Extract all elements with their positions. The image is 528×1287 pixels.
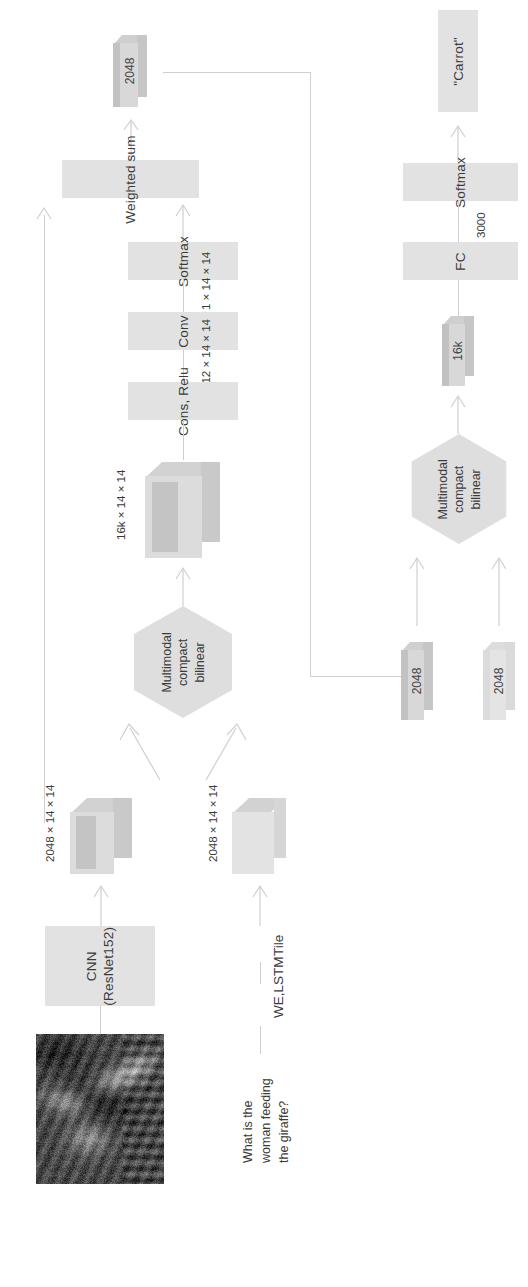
imgfeat-inner-face xyxy=(76,816,96,869)
hidden-16k-slab: 16k xyxy=(442,316,474,386)
line-16k-to-fc xyxy=(458,280,459,316)
line-photo-to-cnn xyxy=(100,1006,101,1034)
line-softmax-to-conv xyxy=(183,280,184,312)
cnn-label: CNN (ResNet152) xyxy=(83,927,118,1006)
photo-canvas xyxy=(36,1034,164,1184)
arrow-imgvec-to-mcb-answer xyxy=(408,556,426,626)
line-fc-to-softmax xyxy=(458,201,459,243)
cnn-node[interactable]: CNN (ResNet152) xyxy=(45,926,155,1006)
edge-label-1x14x14: 1 × 14 × 14 xyxy=(200,252,212,310)
mcb-attention-label: Multimodal compact bilinear xyxy=(159,632,208,692)
volume-inner-face xyxy=(152,482,178,552)
edge-label-3000: 3000 xyxy=(475,212,487,238)
line-volume-to-relu xyxy=(183,420,184,460)
volume-16k-block xyxy=(145,462,220,558)
answer-label: "Carrot" xyxy=(451,37,466,86)
edge-label-16k: 16k × 14 × 14 xyxy=(115,470,127,540)
conv-label: Conv xyxy=(175,315,190,347)
hidden-16k-label: 16k xyxy=(451,341,465,360)
mcb-answer-label: Multimodal compact bilinear xyxy=(435,459,484,519)
txtfeat-front-face xyxy=(232,812,274,874)
skip-connection-bottom xyxy=(310,676,410,677)
image-feature-bypass-line xyxy=(44,215,45,823)
mcb-attention-node[interactable]: Multimodal compact bilinear xyxy=(126,606,240,718)
slab-label-wrap: 2048 xyxy=(113,35,147,107)
hidden16k-label-wrap: 16k xyxy=(442,316,474,386)
txtfeat-side-face xyxy=(274,798,286,858)
line-question-to-lstm xyxy=(260,1026,261,1054)
txtvec-label-wrap: 2048 xyxy=(483,642,515,720)
arrow-image-to-mcb-attention xyxy=(108,718,166,782)
text-vector-2048-slab: 2048 xyxy=(483,642,515,720)
image-feature-block xyxy=(70,798,132,874)
imgfeat-side-face xyxy=(113,798,132,858)
label-image-feature-dims: 2048 × 14 × 14 xyxy=(44,785,56,862)
attention-output-slab: 2048 xyxy=(113,35,147,107)
mcb-answer-node[interactable]: Multimodal compact bilinear xyxy=(404,434,514,544)
arrow-cnn-to-imagefeature xyxy=(92,884,110,926)
answer-node: "Carrot" xyxy=(438,10,478,112)
arrow-tile-to-textfeature xyxy=(251,884,269,926)
conv-node[interactable]: Conv xyxy=(128,312,238,350)
edge-label-512x14x14: 512 × 14 × 14 xyxy=(200,319,212,390)
skip-connection-vertical xyxy=(310,72,311,676)
line-tile-to-lstm xyxy=(260,962,261,984)
label-we-lstm: WE,LSTM xyxy=(271,956,286,1018)
input-image-thumbnail xyxy=(36,1034,164,1184)
fc-node[interactable]: FC xyxy=(403,242,518,280)
arrow-text-to-mcb-attention xyxy=(200,718,258,782)
softmax-answer-node[interactable]: Softmax xyxy=(403,163,518,201)
arrow-bypass-to-weightedsum xyxy=(36,205,54,221)
softmax-attention-node[interactable]: Softmax xyxy=(128,242,238,280)
diagram-canvas: 2048 Weighted sum Softmax 1 × 14 × 14 Co… xyxy=(0,0,528,1287)
skip-connection-top xyxy=(163,72,310,73)
conv-relu-node[interactable]: Cons, Relu xyxy=(128,382,238,420)
question-text: What is the woman feeding the giraffe? xyxy=(239,1078,293,1163)
text-feature-block xyxy=(232,798,286,874)
softmax-attention-label: Softmax xyxy=(175,236,190,287)
image-vector-2048-slab: 2048 xyxy=(401,642,433,720)
weighted-sum-label: Weighted sum xyxy=(123,135,138,223)
arrow-mcb-to-16k xyxy=(449,394,467,434)
label-text-feature-dims: 2048 × 14 × 14 xyxy=(207,785,219,862)
fc-label: FC xyxy=(453,252,468,270)
volume-side-face xyxy=(201,462,220,542)
image-vector-2048-label: 2048 xyxy=(410,668,424,695)
imgvec-label-wrap: 2048 xyxy=(401,642,433,720)
arrow-mcb-to-volume xyxy=(174,566,192,606)
attention-output-label: 2048 xyxy=(123,58,137,85)
label-tile: Tile xyxy=(271,935,286,956)
weighted-sum-node[interactable]: Weighted sum xyxy=(62,160,199,198)
arrow-txtvec-to-mcb-answer xyxy=(490,556,508,626)
text-vector-2048-label: 2048 xyxy=(492,668,506,695)
softmax-answer-label: Softmax xyxy=(453,157,468,208)
